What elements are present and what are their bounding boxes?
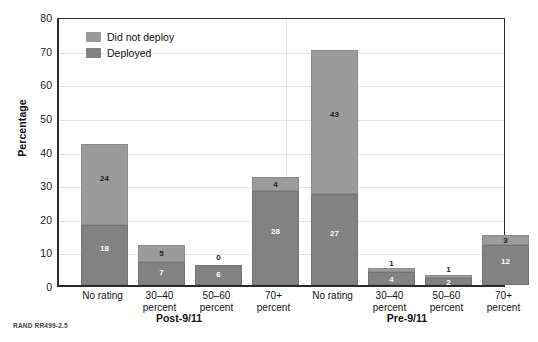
legend-swatch-icon [86, 48, 101, 58]
bar-value-label: 43 [312, 111, 357, 119]
y-tick-30: 30 [8, 181, 52, 192]
bar-value-label: 1 [426, 266, 471, 274]
legend-swatch-icon [86, 32, 101, 42]
bar-post-50-60[interactable]: 0 6 [195, 265, 242, 285]
y-tick-20: 20 [8, 215, 52, 226]
bar-value-label: 27 [312, 230, 357, 238]
bar-segment-deployed[interactable]: 6 [195, 265, 242, 285]
bar-post-30-40[interactable]: 5 7 [138, 245, 185, 285]
y-tick-40: 40 [8, 147, 52, 158]
x-tick-line1: 70+ [468, 290, 538, 302]
plot-frame: 24 18 5 7 0 6 [57, 18, 505, 287]
legend-label: Deployed [107, 47, 151, 59]
bar-value-label: 7 [139, 269, 184, 277]
legend-label: Did not deploy [107, 31, 174, 43]
legend-item-deployed[interactable]: Deployed [86, 46, 236, 60]
bar-value-label: 28 [253, 228, 298, 236]
group-label-pre-9-11: Pre-9/11 [347, 312, 467, 324]
bar-value-label: 6 [196, 271, 241, 279]
bar-value-label: 5 [139, 250, 184, 258]
y-tick-70: 70 [8, 46, 52, 57]
bar-pre-no-rating[interactable]: 43 27 [311, 50, 358, 285]
bar-segment-did-not-deploy[interactable]: 24 [81, 144, 128, 225]
legend-item-did-not-deploy[interactable]: Did not deploy [86, 30, 236, 44]
y-tick-80: 80 [8, 13, 52, 24]
bar-pre-30-40[interactable]: 1 4 [368, 268, 415, 285]
y-tick-60: 60 [8, 80, 52, 91]
y-tick-10: 10 [8, 248, 52, 259]
bar-value-label: 24 [82, 175, 127, 183]
bar-segment-deployed[interactable]: 7 [138, 262, 185, 286]
x-tick-pre-70-plus: 70+ percent [468, 290, 538, 313]
bar-segment-did-not-deploy[interactable]: 3 [482, 235, 529, 245]
bar-value-label: 1 [369, 260, 414, 268]
bar-segment-deployed[interactable]: 2 [425, 278, 472, 285]
chart-legend: Did not deploy Deployed [86, 30, 236, 62]
bar-value-label: 4 [253, 181, 298, 189]
bar-segment-did-not-deploy[interactable]: 43 [311, 50, 358, 195]
gridline-60 [59, 86, 504, 87]
bar-post-no-rating[interactable]: 24 18 [81, 144, 128, 285]
bar-value-label: 2 [426, 279, 471, 287]
group-labels: Post-9/11 Pre-9/11 [57, 312, 505, 328]
bar-value-label: 18 [82, 245, 127, 253]
bar-segment-deployed[interactable]: 27 [311, 194, 358, 285]
y-tick-0: 0 [8, 282, 52, 293]
bar-segment-deployed[interactable]: 28 [252, 191, 299, 285]
source-note: RAND RR499-2.5 [13, 322, 68, 329]
bar-segment-did-not-deploy[interactable]: 5 [138, 245, 185, 262]
bar-value-label: 12 [483, 258, 528, 266]
chart-figure: Percentage 80 70 60 50 40 30 20 10 0 24 [0, 0, 538, 342]
group-label-post-9-11: Post-9/11 [119, 312, 239, 324]
bar-pre-50-60[interactable]: 1 2 [425, 275, 472, 285]
bar-segment-did-not-deploy[interactable]: 4 [252, 177, 299, 190]
bar-post-70-plus[interactable]: 4 28 [252, 177, 299, 285]
bar-value-label: 4 [369, 276, 414, 284]
gridline-50 [59, 120, 504, 121]
bar-segment-deployed[interactable]: 18 [81, 225, 128, 286]
bar-segment-deployed[interactable]: 4 [368, 272, 415, 286]
y-tick-50: 50 [8, 114, 52, 125]
bar-pre-70-plus[interactable]: 3 12 [482, 235, 529, 285]
bar-segment-deployed[interactable]: 12 [482, 245, 529, 285]
y-axis-tick-labels: 80 70 60 50 40 30 20 10 0 [6, 18, 52, 287]
